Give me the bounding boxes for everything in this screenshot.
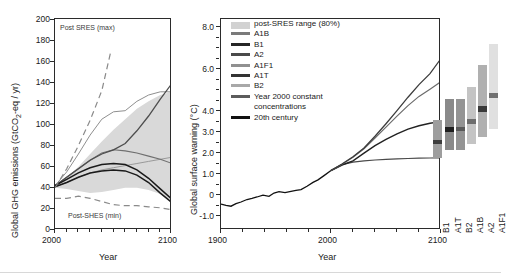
left-xtick-2000: 2000 [42,235,61,245]
left-ytick-40: 40 [20,182,50,192]
legend-item-a2: A2 [231,50,356,60]
scenario-label-a2: A2 [486,223,496,233]
left-xtick-mark [54,229,55,233]
post-sres-max-label: Post SRES (max) [60,24,115,31]
scenario-bar-a1f1 [489,0,498,229]
scenario-label-b2: B2 [464,223,474,233]
right-xtick-mark [396,229,397,232]
scenario-best-b2 [456,127,465,132]
left-ytick-200: 200 [20,14,50,24]
left-xtick-mark [148,229,149,232]
left-ytick-100: 100 [20,119,50,129]
scenario-best-a1t [445,127,454,132]
legend-label: A1B [254,29,269,39]
series-b1 [331,122,440,171]
legend-swatch-line [231,95,250,98]
right-xtick-2000: 2000 [318,235,337,245]
right-xtick-mark [264,229,265,232]
right-ytick-mark [216,47,219,48]
legend-swatch-line [231,43,250,46]
legend-label: 20th century [254,113,298,123]
post-sres-min-line [55,196,171,210]
legend-item-year2000-constant: Year 2000 constant [231,92,356,102]
left-xtick-mark [66,229,67,232]
left-xtick-mark [170,229,171,233]
right-ytick-neg1: -1.0 [189,211,214,221]
right-ytick-mark [216,205,219,206]
right-ytick-mark [216,184,219,185]
right-xtick-mark [418,229,419,232]
left-ytick-0: 0 [20,224,50,234]
scenario-bar-a1b [467,0,476,229]
left-ylabel-tail: -eq / yr) [10,83,20,114]
legend-label: A1F1 [254,61,273,71]
legend-label: A2 [254,50,264,60]
scenario-bar-a2 [478,0,487,229]
left-xtick-mark [159,229,160,232]
left-plot-area [54,18,171,229]
right-ytick-2: 2.0 [192,148,214,158]
right-xtick-mark [286,229,287,232]
right-xtick-mark [374,229,375,232]
scenario-range-b2 [456,99,465,150]
left-ytick-60: 60 [20,161,50,171]
right-ytick-4: 4.0 [192,106,214,116]
right-panel-xlabel: Year [318,252,336,262]
left-xtick-mark [113,229,114,232]
left-plot-svg [55,19,171,229]
legend-swatch-line [231,116,250,120]
left-ytick-80: 80 [20,140,50,150]
left-xtick-mark [101,229,102,232]
scenario-best-a1b [467,119,476,124]
left-ytick-160: 160 [20,56,50,66]
series-year2000-constant [331,158,440,171]
right-ytick-1: 1.0 [192,169,214,179]
legend: post-SRES range (80%) A1B B1 A2 A1F1 A1T… [231,19,356,123]
left-ytick-120: 120 [20,98,50,108]
legend-swatch-line [231,74,250,77]
scenario-best-a2 [478,106,487,112]
scenario-range-a2 [478,65,487,137]
legend-item-20th-century: 20th century [231,113,356,123]
left-ytick-20: 20 [20,203,50,213]
scenario-best-b1 [433,140,442,145]
left-panel-xlabel: Year [99,252,117,262]
legend-item-a1t: A1T [231,71,356,81]
right-ytick-mark [216,79,219,80]
left-ylabel-main: Global GHG emissions (GtCO [10,118,20,238]
right-ytick-mark [216,163,219,164]
right-ytick-mark [216,37,219,38]
legend-label: A1T [254,71,269,81]
scenario-range-a1f1 [489,44,498,128]
right-ytick-mark [216,121,219,122]
legend-swatch-line [231,84,250,87]
legend-swatch-line [231,64,250,67]
right-ytick-6: 6.0 [192,64,214,74]
legend-label: post-SRES range (80%) [254,19,340,29]
right-xtick-2100: 2100 [428,235,447,245]
legend-item-b2: B2 [231,81,356,91]
left-ytick-180: 180 [20,35,50,45]
series-20th-century [221,171,331,207]
right-ytick-3: 3.0 [192,127,214,137]
scenario-label-b1: B1 [441,223,451,233]
scenario-range-a1t [445,99,454,150]
legend-label: Year 2000 constant [254,92,323,102]
right-ytick-0: 0 [192,190,214,200]
right-xtick-mark [242,229,243,232]
scenario-best-a1f1 [489,93,498,98]
legend-label: B2 [254,81,264,91]
legend-item-a1f1: A1F1 [231,61,356,71]
legend-label-concentrations: concentrations [254,102,356,112]
right-xtick-mark [330,229,331,233]
right-xtick-mark [352,229,353,232]
post-sres-min-label: Post-SHES (min) [68,212,121,219]
left-xtick-2100: 2100 [158,235,177,245]
right-ytick-mark [216,100,219,101]
scenario-label-a1t: A1T [453,217,463,233]
scenario-bar-b1 [433,0,442,229]
legend-swatch-line [231,53,250,56]
right-ytick-mark [216,89,219,90]
scenario-bar-a1t [445,0,454,229]
